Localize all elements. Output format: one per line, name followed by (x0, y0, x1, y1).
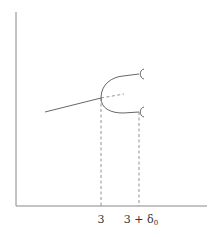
tick-label-3-text: 3 (98, 213, 105, 226)
tick-label-3-plus-delta0: 3 + δ0 (124, 213, 158, 227)
bifurcation-diagram (0, 0, 217, 237)
upper-end-marker-icon (140, 69, 144, 79)
tick-label-delta-subscript: 0 (154, 219, 158, 227)
tick-label-delta-text: 3 + δ (124, 213, 154, 226)
incoming-branch (45, 98, 101, 112)
tick-label-3: 3 (98, 213, 105, 226)
lower-branch (101, 98, 139, 113)
dashed-continuation (101, 94, 124, 98)
lower-end-marker-icon (140, 107, 144, 117)
